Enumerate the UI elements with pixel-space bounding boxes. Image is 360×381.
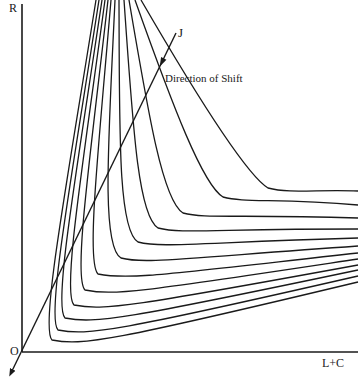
origin-label: O [10,345,19,357]
curve-8 [119,0,358,245]
curve-3 [62,0,358,320]
curve-9 [124,0,358,231]
curve-4 [70,0,358,307]
curve-10 [129,0,358,218]
direction-of-shift-annotation: Direction of Shift [165,73,243,84]
curve-12 [141,0,358,191]
shift-diagram [0,0,360,381]
ray-label-j: J [178,26,183,39]
y-axis-label: R [9,2,17,14]
curve-11 [135,0,358,205]
x-axis-label: L+C [322,357,344,369]
curve-family [49,0,358,342]
curve-2 [55,0,358,332]
direction-arrowhead-icon [160,57,167,66]
curve-7 [108,0,358,261]
